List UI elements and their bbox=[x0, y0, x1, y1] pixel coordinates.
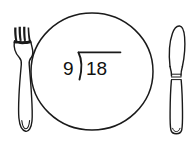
knife bbox=[169, 26, 185, 134]
knife-handle-outline bbox=[170, 80, 182, 134]
knife-handle-inner-detail bbox=[173, 128, 180, 131]
fork-tine-1 bbox=[14, 27, 17, 41]
knife-blade-outline bbox=[169, 26, 185, 67]
fork-tine-3 bbox=[23, 27, 26, 41]
fork-handle-inner-detail bbox=[22, 121, 30, 129]
scene-svg: 9 18 bbox=[0, 0, 191, 147]
fork-tines-icon bbox=[14, 27, 32, 44]
division-bracket-icon bbox=[79, 53, 82, 80]
division-divisor: 9 bbox=[63, 58, 74, 79]
long-division-expression: 9 18 bbox=[63, 52, 121, 79]
division-dividend: 18 bbox=[86, 58, 107, 79]
fork bbox=[14, 27, 33, 132]
illustration-canvas: 9 18 bbox=[0, 0, 191, 147]
fork-handle-outline bbox=[14, 42, 33, 132]
fork-tine-2 bbox=[19, 27, 22, 41]
fork-tine-4 bbox=[28, 27, 31, 41]
